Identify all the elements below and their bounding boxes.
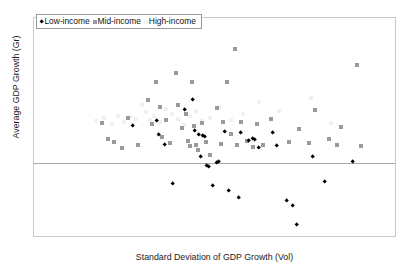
data-point-low [256, 146, 261, 151]
data-point-mid [269, 117, 273, 121]
x-tick-mark [235, 236, 236, 237]
data-point-high [140, 103, 144, 107]
y-tick-mark [33, 54, 34, 55]
data-point-low [130, 124, 135, 129]
y-tick-mark [33, 18, 34, 19]
legend-label: High-income [149, 16, 196, 27]
data-point-low [202, 135, 207, 140]
legend-marker-icon [39, 19, 44, 24]
data-point-mid [204, 140, 208, 144]
data-point-high [257, 100, 261, 104]
data-point-mid [186, 139, 190, 143]
legend-item-mid[interactable]: Mid-income [92, 16, 142, 27]
x-axis-title: Standard Deviation of GDP Growth (Vol) [33, 252, 396, 262]
x-tick-mark [34, 236, 35, 237]
data-point-mid [174, 71, 178, 75]
data-point-high [158, 120, 162, 124]
legend-label: Low-income [44, 16, 89, 27]
data-point-high [148, 118, 152, 122]
data-point-high [241, 112, 245, 116]
x-tick-mark [194, 236, 195, 237]
data-point-high [188, 114, 192, 118]
y-tick-mark [33, 236, 34, 237]
scatter-chart: Low-incomeMid-incomeHigh-income -4-20246… [0, 0, 411, 269]
data-point-high [329, 121, 333, 125]
data-point-mid [339, 125, 343, 129]
data-point-mid [160, 135, 164, 139]
data-point-low [222, 129, 227, 134]
data-point-mid [251, 145, 255, 149]
x-tick-mark [395, 236, 396, 237]
data-point-low [290, 204, 295, 209]
data-point-low [162, 143, 167, 148]
data-point-high [309, 96, 313, 100]
data-point-high [170, 112, 174, 116]
data-point-low [252, 137, 257, 142]
x-tick-mark [275, 236, 276, 237]
data-point-low [238, 130, 243, 135]
data-point-high [94, 119, 98, 123]
data-point-mid [100, 121, 104, 125]
data-point-low [294, 222, 299, 227]
data-point-mid [327, 137, 331, 141]
data-point-high [116, 114, 120, 118]
data-point-mid [261, 143, 265, 147]
data-point-mid [287, 140, 291, 144]
data-point-mid [194, 143, 198, 147]
x-tick-mark [355, 236, 356, 237]
x-tick-mark [315, 236, 316, 237]
data-point-mid [106, 137, 110, 141]
data-point-low [310, 155, 315, 160]
y-tick-mark [33, 200, 34, 201]
data-point-mid [190, 80, 194, 84]
data-point-high [164, 107, 168, 111]
data-point-mid [233, 47, 237, 51]
data-point-low [322, 179, 327, 184]
data-point-mid [235, 143, 239, 147]
data-point-mid [188, 144, 192, 148]
y-tick-mark [33, 127, 34, 128]
data-point-mid [219, 142, 223, 146]
data-point-low [170, 181, 175, 186]
data-point-low [206, 165, 211, 170]
data-point-low [270, 130, 275, 135]
legend-marker-icon [93, 20, 97, 24]
data-point-mid [168, 141, 172, 145]
x-tick-mark [114, 236, 115, 237]
data-point-high [134, 117, 138, 121]
data-point-high [144, 110, 148, 114]
data-point-high [229, 118, 233, 122]
data-point-mid [355, 63, 359, 67]
data-point-mid [208, 153, 212, 157]
data-point-mid [239, 120, 243, 124]
data-point-mid [154, 80, 158, 84]
data-point-high [102, 116, 106, 120]
data-point-mid [176, 103, 180, 107]
data-point-mid [307, 141, 311, 145]
data-point-mid [359, 144, 363, 148]
data-point-high [110, 122, 114, 126]
legend-item-low[interactable]: Low-income [39, 16, 91, 27]
data-point-mid [112, 140, 116, 144]
legend-marker-icon [144, 20, 148, 24]
data-point-mid [158, 105, 162, 109]
x-tick-mark [154, 236, 155, 237]
data-point-mid [120, 146, 124, 150]
y-tick-mark [33, 163, 34, 164]
data-point-mid [146, 98, 150, 102]
data-point-low [192, 128, 197, 133]
data-point-mid [255, 122, 259, 126]
data-point-mid [221, 120, 225, 124]
x-tick-mark [74, 236, 75, 237]
data-point-mid [150, 122, 154, 126]
data-point-high [277, 109, 281, 113]
data-point-low [274, 144, 279, 149]
legend-item-high[interactable]: High-income [143, 16, 197, 27]
data-point-low [236, 195, 241, 200]
data-point-mid [180, 126, 184, 130]
data-point-low [210, 184, 215, 189]
y-axis-title: Average GDP Growth (Gr) [11, 7, 21, 167]
legend-label: Mid-income [98, 16, 141, 27]
data-point-high [176, 117, 180, 121]
data-point-high [194, 109, 198, 113]
